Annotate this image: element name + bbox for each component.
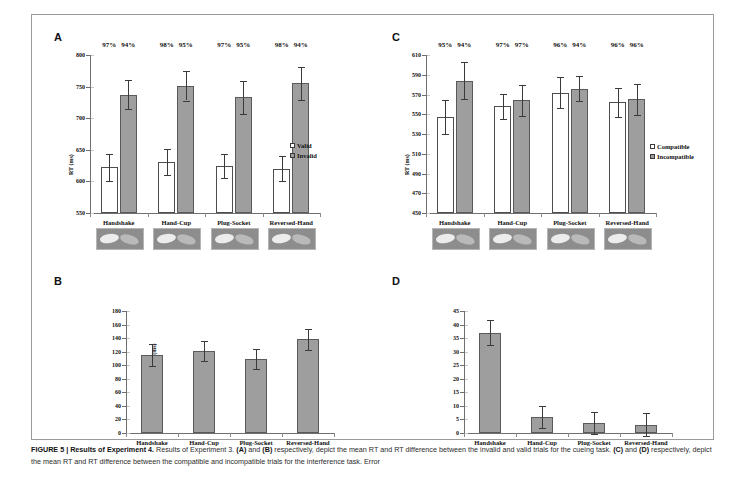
y-axis-gridmark xyxy=(427,55,430,56)
y-axis-gridmark xyxy=(465,311,468,312)
accuracy-label-reversed-hand-0: 98% xyxy=(275,41,289,49)
error-bar-cap-top xyxy=(298,67,305,68)
y-axis-gridmark xyxy=(427,154,430,155)
y-axis-tick-label-610: 610 xyxy=(412,52,421,58)
x-axis-tick xyxy=(126,433,127,437)
y-axis-tick xyxy=(122,325,126,326)
error-bar-cap-bottom xyxy=(643,436,650,437)
y-axis-tick xyxy=(422,114,426,115)
y-axis-tick xyxy=(86,181,90,182)
legend-item-invalid: Invalid xyxy=(290,152,317,159)
accuracy-label-plug-socket-1: 95% xyxy=(236,41,250,49)
y-axis-tick-label-0: 0 xyxy=(118,430,121,436)
bar-handshake-invalid xyxy=(120,95,137,213)
panel-c-letter: C xyxy=(392,31,400,43)
caption-and-2: and xyxy=(623,445,639,454)
error-bar-cap-top xyxy=(253,349,260,350)
y-axis-tick-label-5: 5 xyxy=(456,416,459,422)
y-axis-tick xyxy=(122,419,126,420)
bar-handshake-incompatible xyxy=(456,81,473,213)
y-axis-tick-label-550: 550 xyxy=(412,111,421,117)
error-bar-cap-top xyxy=(279,156,286,157)
error-bar-cap-top xyxy=(615,88,622,89)
y-axis-tick-label-120: 120 xyxy=(112,349,121,355)
x-axis-tick xyxy=(148,213,149,217)
error-bar-cap-top xyxy=(643,413,650,414)
x-axis-tick xyxy=(568,433,569,437)
y-axis-line xyxy=(464,311,465,433)
error-bar-cap-bottom xyxy=(305,350,312,351)
y-axis-tick-label-490: 490 xyxy=(412,171,421,177)
x-axis-tick xyxy=(464,433,465,437)
y-axis-tick xyxy=(422,174,426,175)
y-axis-gridmark xyxy=(91,150,94,151)
error-bar xyxy=(646,413,647,436)
y-axis-tick xyxy=(460,311,464,312)
error-bar-cap-top xyxy=(576,76,583,77)
x-axis-tick xyxy=(599,213,600,217)
error-bar-cap-bottom xyxy=(615,117,622,118)
x-axis-tick xyxy=(484,213,485,217)
y-axis-tick xyxy=(460,379,464,380)
legend-swatch-compatible-icon xyxy=(650,144,655,149)
y-axis-tick-label-160: 160 xyxy=(112,322,121,328)
caption-ref-c: (C) xyxy=(613,445,623,454)
y-axis-gridmark xyxy=(91,181,94,182)
error-bar-cap-top xyxy=(240,81,247,82)
y-axis-tick-label-570: 570 xyxy=(412,92,421,98)
x-axis-tick xyxy=(672,433,673,437)
y-axis-tick-label-0: 0 xyxy=(456,430,459,436)
accuracy-label-reversed-hand-1: 94% xyxy=(294,41,308,49)
error-bar xyxy=(128,80,129,109)
y-axis-gridmark xyxy=(427,75,430,76)
hand-shape-left xyxy=(550,232,570,245)
y-axis-gridmark xyxy=(465,338,468,339)
error-bar-cap-bottom xyxy=(125,109,132,110)
y-axis-gridmark xyxy=(127,338,130,339)
accuracy-label-reversed-hand-0: 96% xyxy=(611,41,625,49)
figure-caption: FIGURE 5 | Results of Experiment 4. Resu… xyxy=(31,444,712,467)
y-axis-gridmark xyxy=(127,325,130,326)
y-axis-tick xyxy=(122,379,126,380)
error-bar-cap-bottom xyxy=(164,175,171,176)
y-axis-tick-label-20: 20 xyxy=(115,416,121,422)
x-axis-tick xyxy=(178,433,179,437)
x-axis-tick xyxy=(334,433,335,437)
y-axis-tick-label-650: 650 xyxy=(76,147,85,153)
legend-item-compatible: Compatible xyxy=(650,143,694,150)
error-bar-cap-bottom xyxy=(487,345,494,346)
error-bar-cap-bottom xyxy=(221,178,228,179)
legend-label-incompatible: Incompatible xyxy=(657,153,694,160)
category-label-plug-socket: Plug-Socket xyxy=(553,219,586,226)
category-label-handshake: Handshake xyxy=(439,219,470,226)
error-bar-cap-bottom xyxy=(591,434,598,435)
error-bar-cap-top xyxy=(634,84,641,85)
legend-item-incompatible: Incompatible xyxy=(650,153,694,160)
hand-shape-left xyxy=(157,232,177,245)
y-axis-gridmark xyxy=(91,55,94,56)
y-axis-gridmark xyxy=(427,114,430,115)
accuracy-label-reversed-hand-1: 96% xyxy=(630,41,644,49)
x-axis-tick xyxy=(620,433,621,437)
panel-c-y-axis-label: RT (ms) xyxy=(404,154,410,175)
y-axis-tick xyxy=(122,311,126,312)
hand-shape-left xyxy=(272,232,292,245)
bar-plug-socket-compatible xyxy=(552,93,569,213)
error-bar xyxy=(542,406,543,428)
y-axis-tick xyxy=(460,406,464,407)
error-bar-cap-bottom xyxy=(634,115,641,116)
caption-title: Results of Experiment 4. xyxy=(70,445,154,454)
error-bar-cap-top xyxy=(221,154,228,155)
x-axis-tick xyxy=(263,213,264,217)
panel-c-legend: Compatible Incompatible xyxy=(650,143,694,163)
bar-reversed-hand-compatible xyxy=(609,102,626,213)
y-axis-tick-label-510: 510 xyxy=(412,151,421,157)
legend-label-invalid: Invalid xyxy=(297,152,317,159)
panel-b-letter: B xyxy=(54,275,62,287)
y-axis-tick-label-35: 35 xyxy=(453,335,459,341)
category-label-handshake: Handshake xyxy=(103,219,134,226)
error-bar xyxy=(637,84,638,116)
y-axis-gridmark xyxy=(465,406,468,407)
category-label-reversed-hand: Reversed-Hand xyxy=(606,219,649,226)
accuracy-label-hand-cup-1: 95% xyxy=(179,41,193,49)
